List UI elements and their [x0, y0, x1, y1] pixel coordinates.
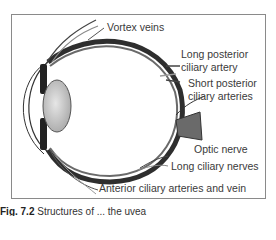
caption-text: Structures of ... the uvea [37, 206, 146, 216]
label-long-ciliary-nerves: Long ciliary nerves [171, 160, 259, 172]
label-long-posterior-line1: Long posterior [181, 48, 248, 60]
label-long-posterior-line2: ciliary artery [181, 61, 238, 73]
caption-number: Fig. 7.2 [0, 206, 34, 216]
label-vortex-veins: Vortex veins [107, 21, 164, 33]
figure-caption: Fig. 7.2 Structures of ... the uvea [0, 206, 146, 216]
label-anterior-ciliary: Anterior ciliary arteries and vein [99, 182, 246, 194]
label-short-posterior-line2: ciliary arteries [188, 90, 253, 102]
label-optic-nerve: Optic nerve [194, 143, 248, 155]
label-short-posterior-line1: Short posterior [188, 77, 257, 89]
